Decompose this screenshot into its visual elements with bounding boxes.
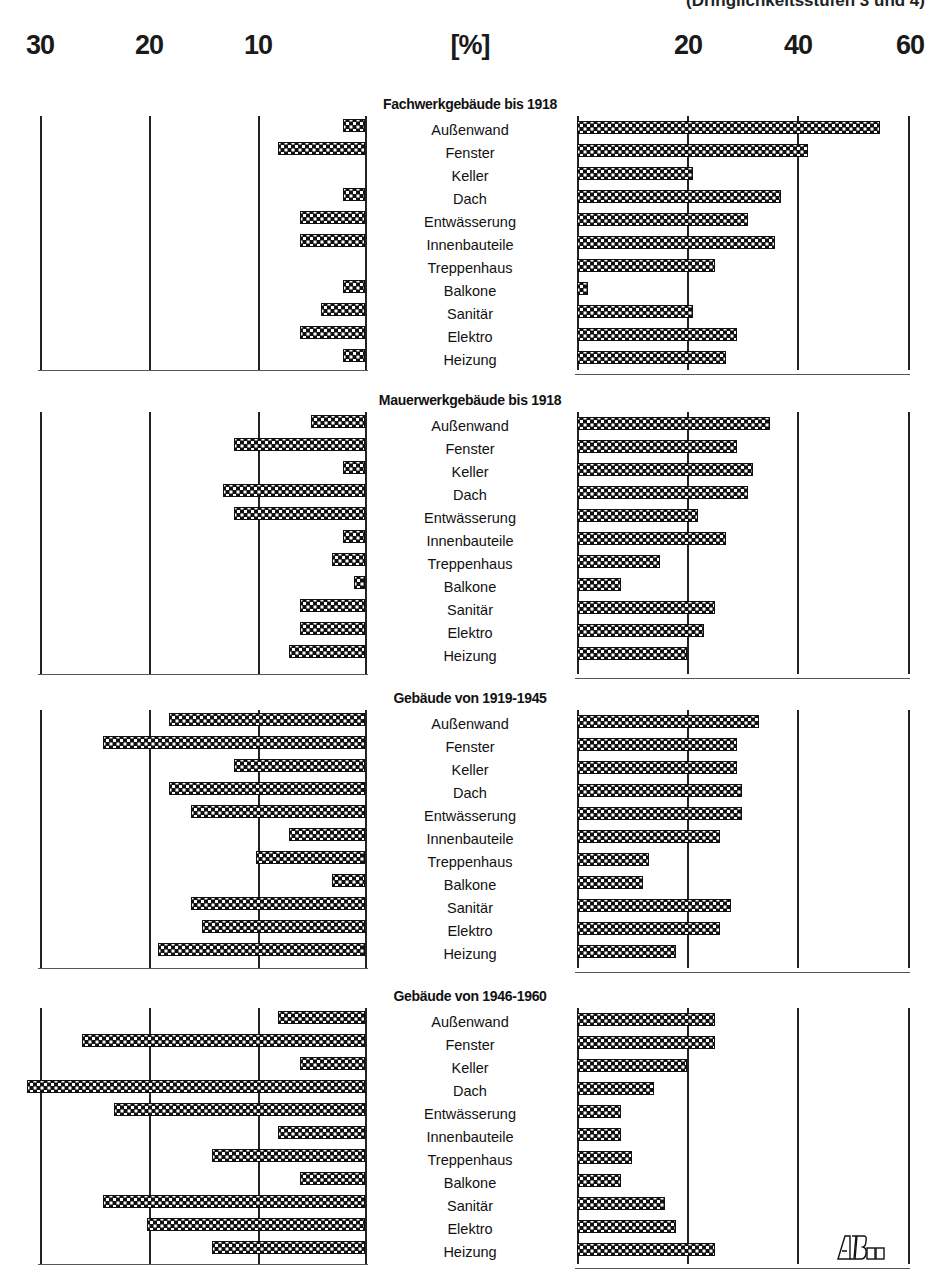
right-tick-20: 20 <box>674 30 702 61</box>
bar-left <box>300 326 365 339</box>
bar-left <box>169 782 365 795</box>
bar-right <box>577 1197 665 1210</box>
grid-line <box>365 116 367 370</box>
bar-left <box>332 874 365 887</box>
bar-right <box>577 624 704 637</box>
baseline <box>38 968 368 969</box>
category-label: Keller <box>451 168 488 184</box>
bar-left <box>300 599 365 612</box>
grid-line <box>797 412 799 674</box>
category-label: Heizung <box>443 352 496 368</box>
bar-right <box>577 555 660 568</box>
bar-right <box>577 647 687 660</box>
category-label: Keller <box>451 1060 488 1076</box>
baseline <box>38 370 368 371</box>
bar-right <box>577 1174 621 1187</box>
bar-left <box>278 1126 365 1139</box>
left-tick-30: 30 <box>26 30 54 61</box>
bar-right <box>577 830 720 843</box>
bar-right <box>577 899 731 912</box>
bar-left <box>289 645 365 658</box>
bar-left <box>223 484 365 497</box>
right-tick-40: 40 <box>784 30 812 61</box>
bar-left <box>343 280 365 293</box>
bar-right <box>577 213 748 226</box>
bar-right <box>577 328 737 341</box>
category-label: Heizung <box>443 1244 496 1260</box>
bar-left <box>191 897 365 910</box>
bar-right <box>577 807 742 820</box>
bar-left <box>169 713 365 726</box>
bar-right <box>577 1013 715 1026</box>
bar-right <box>577 121 880 134</box>
grid-line <box>258 116 260 370</box>
bar-right <box>577 1036 715 1049</box>
category-label: Fenster <box>445 441 494 457</box>
bar-left <box>234 438 365 451</box>
bar-left <box>300 622 365 635</box>
bar-left <box>191 805 365 818</box>
bar-right <box>577 876 643 889</box>
bar-left <box>300 234 365 247</box>
baseline <box>575 1268 910 1269</box>
bar-right <box>577 1105 621 1118</box>
category-label: Entwässerung <box>424 510 516 526</box>
bar-right <box>577 417 770 430</box>
bar-right <box>577 351 726 364</box>
grid-line <box>40 116 42 370</box>
bar-right <box>577 532 726 545</box>
bar-left <box>234 759 365 772</box>
grid-line <box>908 1008 910 1264</box>
bar-right <box>577 486 748 499</box>
grid-line <box>40 710 42 968</box>
bar-left <box>343 188 365 201</box>
category-label: Innenbauteile <box>426 831 513 847</box>
aibau-logo: AIBau <box>836 1234 886 1260</box>
panel-title: Gebäude von 1946-1960 <box>393 988 546 1004</box>
bar-left <box>256 851 365 864</box>
bar-right <box>577 236 775 249</box>
grid-line <box>149 116 151 370</box>
bar-left <box>311 415 366 428</box>
bar-right <box>577 144 808 157</box>
unit-label: [%] <box>451 30 490 61</box>
category-label: Fenster <box>445 1037 494 1053</box>
category-label: Außenwand <box>431 716 508 732</box>
bar-left <box>343 119 365 132</box>
bar-right <box>577 167 693 180</box>
bar-right <box>577 190 781 203</box>
bar-right <box>577 761 737 774</box>
category-label: Innenbauteile <box>426 237 513 253</box>
bar-right <box>577 578 621 591</box>
bar-right <box>577 601 715 614</box>
bar-left <box>289 828 365 841</box>
category-label: Keller <box>451 464 488 480</box>
panel-title: Fachwerkgebäude bis 1918 <box>383 96 557 112</box>
baseline <box>38 674 368 675</box>
right-tick-60: 60 <box>896 30 924 61</box>
grid-line <box>149 412 151 674</box>
bar-right <box>577 853 649 866</box>
bar-right <box>577 922 720 935</box>
bar-right <box>577 1082 654 1095</box>
grid-line <box>797 710 799 968</box>
category-label: Balkone <box>444 1175 496 1191</box>
left-tick-10: 10 <box>244 30 272 61</box>
bar-right <box>577 1243 715 1256</box>
bar-right <box>577 715 759 728</box>
bar-right <box>577 1128 621 1141</box>
category-label: Fenster <box>445 145 494 161</box>
bar-right <box>577 1151 632 1164</box>
category-label: Treppenhaus <box>428 260 513 276</box>
bar-left <box>343 349 365 362</box>
bar-right <box>577 738 737 751</box>
grid-line <box>365 412 367 674</box>
panel-1: Fachwerkgebäude bis 1918AußenwandFenster… <box>0 96 935 378</box>
category-label: Außenwand <box>431 122 508 138</box>
bar-left <box>278 142 365 155</box>
bar-left <box>114 1103 365 1116</box>
baseline <box>575 678 910 679</box>
category-label: Innenbauteile <box>426 533 513 549</box>
category-label: Elektro <box>447 625 492 641</box>
panel-4: Gebäude von 1946-1960AußenwandFensterKel… <box>0 988 935 1272</box>
